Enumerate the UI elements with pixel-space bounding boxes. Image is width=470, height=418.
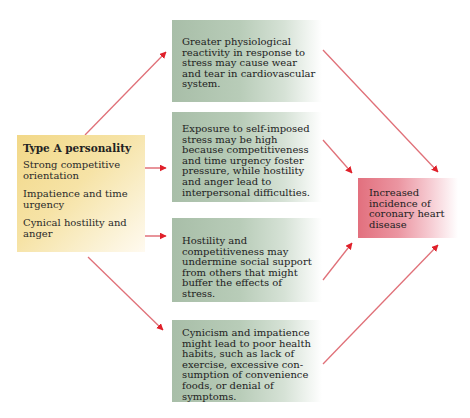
arrow-from-mechanism-1 <box>323 50 438 172</box>
mechanism-text: Hostility and competitiveness may underm… <box>182 236 316 300</box>
mechanism-box-self-imposed-stress: Exposure to self-imposed stress may be h… <box>172 112 322 202</box>
outcome-box-coronary-heart-disease: Increased incidence of coronary heart di… <box>358 178 458 238</box>
mechanism-box-social-support: Hostility and competitiveness may underm… <box>172 218 322 302</box>
arrow-to-mechanism-1 <box>85 52 166 135</box>
trait-impatience: Impatience and time urgency <box>23 189 140 210</box>
mechanism-text: Cynicism and impatience might lead to po… <box>182 328 316 402</box>
type-a-personality-box: Type A personality Strong competitive or… <box>17 135 145 252</box>
arrow-from-mechanism-2 <box>323 140 352 173</box>
mechanism-box-physiological-reactivity: Greater physiological reactivity in resp… <box>172 20 322 102</box>
mechanism-box-health-habits: Cynicism and impatience might lead to po… <box>172 320 322 402</box>
outcome-text: Increased incidence of coronary heart di… <box>369 187 445 230</box>
type-a-title: Type A personality <box>23 142 140 155</box>
arrow-from-mechanism-3 <box>323 243 352 280</box>
mechanism-text: Exposure to self-imposed stress may be h… <box>182 124 316 198</box>
trait-competitive: Strong competitive orientation <box>23 160 140 181</box>
mechanism-text: Greater physiological reactivity in resp… <box>182 37 316 90</box>
trait-hostility: Cynical hostility and anger <box>23 218 140 239</box>
arrow-from-mechanism-4 <box>323 245 438 364</box>
arrow-to-mechanism-4 <box>88 257 163 330</box>
